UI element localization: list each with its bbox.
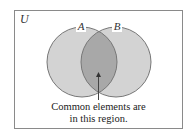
set-a-label: A [77,20,85,32]
caption-line-2: in this region. [14,113,183,125]
set-b-label: B [114,20,121,32]
caption-line-1: Common elements are [14,101,183,113]
